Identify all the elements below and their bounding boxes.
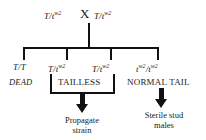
parent-genotype-right: T/tw2 <box>94 10 111 21</box>
cross-trunk-line <box>88 23 90 48</box>
offspring-2-genotype-main: T/t <box>48 64 58 74</box>
parent-left-superscript: w2 <box>54 10 61 16</box>
drop-line-offspring-4 <box>157 47 159 60</box>
arrow-head <box>155 99 167 108</box>
tailless-bracket-right-arm <box>113 74 115 94</box>
parent-right-superscript: w2 <box>104 10 111 16</box>
phenotype-normal-tail: NORMAL TAIL <box>127 78 190 87</box>
outcome-right-line-2: males <box>131 121 197 131</box>
outcome-left-line-2: strain <box>52 126 112 136</box>
parent-right-text: T/t <box>94 11 104 21</box>
outcome-sterile-stud-males: Sterile stud males <box>131 111 197 131</box>
genetic-cross-diagram: T/tw2 X T/tw2 T/T T/tw2 T/tw2 tw2/tw2 DE… <box>0 0 206 140</box>
cross-symbol: X <box>80 7 89 20</box>
outcome-propagate-strain: Propagate strain <box>52 116 112 136</box>
parent-genotype-left: T/tw2 <box>44 10 61 21</box>
offspring-4-genotype-superscript-2: w2 <box>151 63 158 69</box>
offspring-genotype-1: T/T <box>13 63 26 72</box>
drop-line-offspring-2 <box>66 47 68 60</box>
drop-line-offspring-1 <box>23 47 25 60</box>
offspring-2-genotype-superscript: w2 <box>58 63 65 69</box>
offspring-genotype-3: T/tw2 <box>92 63 109 74</box>
phenotype-tailless: TAILLESS <box>58 78 100 87</box>
offspring-3-genotype-superscript: w2 <box>102 63 109 69</box>
arrow-head <box>76 104 88 113</box>
drop-line-offspring-3 <box>110 47 112 60</box>
parent-left-text: T/t <box>44 11 54 21</box>
offspring-3-genotype-main: T/t <box>92 64 102 74</box>
offspring-genotype-2: T/tw2 <box>48 63 65 74</box>
tailless-bracket-left-arm <box>50 74 52 94</box>
offspring-4-genotype-superscript: w2 <box>139 63 146 69</box>
phenotype-dead: DEAD <box>9 78 32 87</box>
offspring-1-genotype-main: T/T <box>13 62 26 72</box>
offspring-genotype-4: tw2/tw2 <box>136 63 158 74</box>
sibship-bar <box>23 47 159 49</box>
